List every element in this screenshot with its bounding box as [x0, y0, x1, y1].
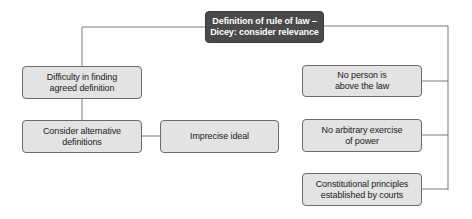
node-no-person-above-law: No person is above the law	[302, 65, 422, 97]
node-no-arbitrary-power: No arbitrary exercise of power	[302, 119, 422, 152]
node-constitutional-principles: Constitutional principles established by…	[302, 173, 422, 206]
root-node: Definition of rule of law – Dicey: consi…	[205, 11, 324, 43]
node-alternative-definitions: Consider alternative definitions	[22, 120, 142, 153]
node-imprecise-ideal: Imprecise ideal	[160, 120, 279, 153]
node-difficulty-definition: Difficulty in finding agreed definition	[22, 66, 142, 99]
